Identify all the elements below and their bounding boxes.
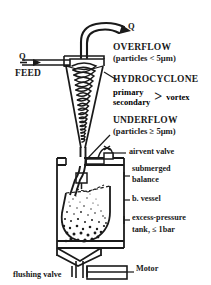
hydrocyclone-label: HYDROCYCLONE (113, 74, 198, 84)
feed-label: FEED (15, 68, 41, 78)
vortex-label: vortex (166, 92, 189, 102)
submerged-label: submerged (132, 165, 171, 174)
underflow-title: UNDERFLOW (113, 115, 178, 125)
spiral-vortex (72, 63, 96, 142)
submerged-balance (76, 173, 104, 192)
airvent-valve (98, 146, 113, 159)
vortex-primary-label: primary (113, 87, 150, 97)
balance-label: balance (132, 176, 159, 185)
overflow-spec: (particles < 5µm) (113, 54, 176, 63)
motor-block (87, 266, 127, 279)
q-overflow-label: Q (128, 22, 135, 31)
b-vessel (62, 186, 110, 242)
underflow-pipe (70, 147, 86, 196)
q-feed-label: Q (19, 52, 26, 61)
motor-label: Motor (136, 265, 158, 274)
vortex-secondary-label: secondary (113, 97, 150, 107)
flushing-valve-label: flushing valve (13, 271, 61, 280)
underflow-spec: (particles ≥ 5µm) (113, 127, 176, 136)
airvent-valve-label: airvent valve (129, 148, 174, 157)
lid-penetration (66, 157, 84, 166)
vortex-brace-icon: > (154, 90, 162, 104)
excess-pressure-label: excess-pressure (132, 214, 186, 223)
hydrocyclone-diagram: Q Q FEED OVERFLOW (particles < 5µm) HYDR… (0, 0, 211, 285)
hydrocyclone-head (64, 56, 104, 66)
b-vessel-label: b. vessel (132, 195, 161, 204)
diagram-linework (0, 0, 211, 285)
overflow-title: OVERFLOW (113, 42, 171, 52)
tank-rating-label: tank, ≤ 1bar (132, 226, 175, 235)
feed-pipe (22, 60, 70, 65)
vortex-annotation: primary secondary > vortex (113, 87, 190, 108)
vent-duct (86, 159, 104, 164)
